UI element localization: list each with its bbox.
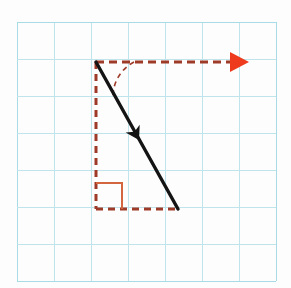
vector-diagram-svg — [0, 0, 291, 288]
figure-canvas: A black vector arrow directed down and t… — [0, 0, 291, 288]
